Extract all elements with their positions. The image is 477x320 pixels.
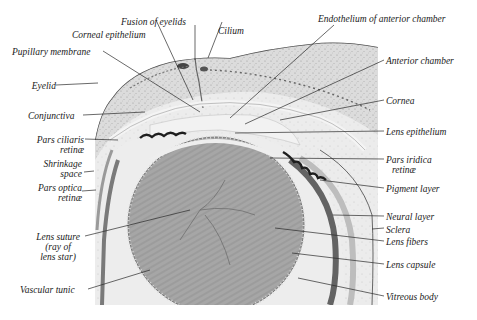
label-fusion-of-eyelids: Fusion of eyelids (121, 17, 186, 27)
label-anterior-chamber: Anterior chamber (386, 56, 454, 66)
label-sclera: Sclera (386, 225, 410, 235)
label-vascular-tunic: Vascular tunic (20, 285, 75, 295)
label-lens-suture: Lens suture (ray of lens star) (30, 232, 86, 262)
label-pigment-layer: Pigment layer (386, 184, 440, 194)
label-pars-optica-retinae: Pars optica retinæ (20, 183, 82, 203)
label-eyelid: Eyelid (22, 81, 56, 91)
label-lens-fibers: Lens fibers (386, 237, 428, 247)
label-corneal-epithelium: Corneal epithelium (72, 30, 146, 40)
lens (128, 137, 304, 313)
label-conjunctiva: Conjunctiva (28, 111, 74, 121)
label-pars-ciliaris-retinae: Pars ciliaris retinæ (20, 135, 84, 155)
label-endothelium-of-anterior-chamber: Endothelium of anterior chamber (318, 14, 445, 24)
label-pars-iridica-retinae: Pars iridica retinæ (386, 155, 432, 175)
label-neural-layer: Neural layer (386, 212, 434, 222)
label-pupillary-membrane: Pupillary membrane (12, 47, 90, 57)
label-shrinkage-space: Shrinkage space (20, 159, 82, 179)
label-vitreous-body: Vitreous body (386, 292, 438, 302)
label-lens-epithelium: Lens epithelium (386, 127, 446, 137)
label-cilium: Cilium (218, 26, 244, 36)
label-cornea: Cornea (386, 96, 415, 106)
label-lens-capsule: Lens capsule (386, 260, 435, 270)
eye-section-figure: Pupillary membrane Eyelid Conjunctiva Pa… (0, 0, 477, 320)
